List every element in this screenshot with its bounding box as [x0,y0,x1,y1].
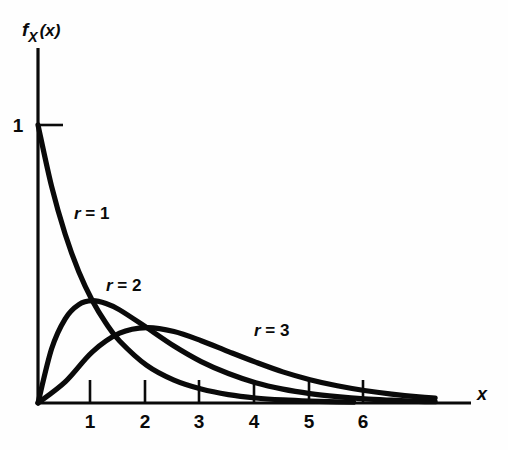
x-tick-label-6: 6 [358,411,369,432]
density-curve-r2 [38,301,435,403]
curve-label-r1-rest: = 1 [81,204,110,223]
curve-label-r3: r = 3 [254,321,289,340]
curve-label-r2: r = 2 [106,276,141,295]
chart-canvas: fX(x) x 1 1 2 3 4 5 6 r = 1 r = 2 r = 3 [0,0,508,450]
gamma-density-figure: fX(x) x 1 1 2 3 4 5 6 r = 1 r = 2 r = 3 [0,0,508,450]
curve-label-r1: r = 1 [74,204,109,223]
x-tick-label-1: 1 [85,411,96,432]
y-axis-label-subscript: X [27,29,39,45]
y-axis-label: fX(x) [22,19,61,45]
x-tick-label-3: 3 [194,411,205,432]
y-axis-label-argument: (x) [40,21,61,40]
curve-label-r2-rest: = 2 [113,276,142,295]
x-tick-label-4: 4 [249,411,260,432]
x-tick-label-5: 5 [304,411,315,432]
x-axis-label: x [476,384,488,404]
x-tick-label-2: 2 [140,411,151,432]
density-curve-r3 [38,328,435,403]
y-tick-label-1: 1 [13,115,24,136]
curve-label-r3-rest: = 3 [261,321,290,340]
